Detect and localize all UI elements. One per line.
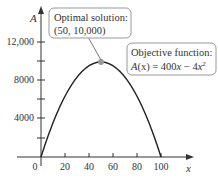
y-axis-label: A: [29, 12, 37, 24]
optimal-solution-title: Optimal solution:: [54, 12, 128, 23]
x-tick-label-40: 40: [84, 161, 94, 172]
origin-label: 0: [33, 161, 38, 172]
formula-part-2: − 4: [181, 61, 198, 72]
y-tick-label-4000: 4000: [14, 112, 34, 123]
x-tick-label-60: 60: [108, 161, 118, 172]
formula-exponent: 2: [202, 60, 206, 68]
x-axis-label: x: [185, 162, 191, 174]
x-tick-label-80: 80: [132, 161, 142, 172]
optimal-solution-value: (50, 10,000): [54, 25, 106, 37]
x-tick-label-20: 20: [60, 161, 70, 172]
x-axis-arrow-icon: [186, 154, 194, 160]
x-tick-label-100: 100: [154, 161, 169, 172]
formula-part-1: (x) = 400: [137, 61, 176, 73]
objective-function-title: Objective function:: [131, 47, 212, 58]
optimal-leader-line: [88, 37, 101, 60]
objective-function-formula: A(x) = 400x − 4x2: [130, 60, 206, 73]
parabola-chart: 12,000 8000 4000 0 20 40 60 80 100 A x O…: [0, 0, 218, 183]
objective-curve: [41, 62, 161, 157]
x-ticks: [65, 153, 161, 157]
y-tick-label-12000: 12,000: [7, 36, 35, 47]
chart-stage: 12,000 8000 4000 0 20 40 60 80 100 A x O…: [0, 0, 218, 183]
y-tick-label-8000: 8000: [14, 74, 34, 85]
y-axis-arrow-icon: [38, 6, 44, 14]
